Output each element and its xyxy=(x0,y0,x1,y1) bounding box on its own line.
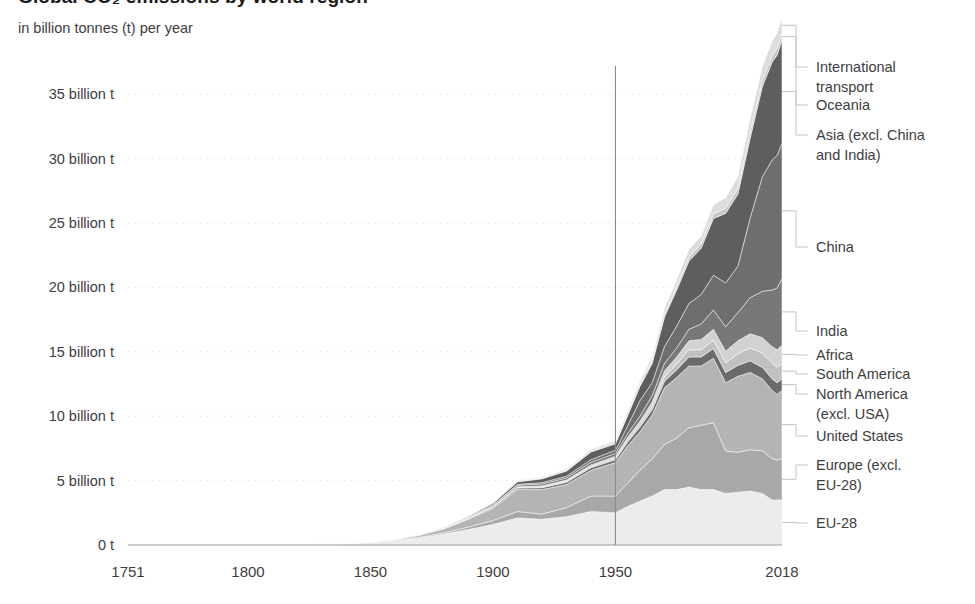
y-tick-label: 15 billion t xyxy=(49,344,114,360)
legend-label-europe_other: Europe (excl. xyxy=(816,457,901,473)
x-tick-label: 1800 xyxy=(231,563,264,580)
leader-line-africa xyxy=(782,354,808,355)
y-tick-label: 5 billion t xyxy=(57,473,114,489)
legend-label-asia_other: and India) xyxy=(816,147,881,163)
legend-label-international_transport: transport xyxy=(816,79,873,95)
area-band xyxy=(128,487,782,545)
y-axis-ticks: 0 t5 billion t10 billion t15 billion t20… xyxy=(49,86,114,553)
leader-line-international_transport xyxy=(782,25,808,67)
leader-line-south_america xyxy=(782,371,808,374)
legend-label-south_america: South America xyxy=(816,366,911,382)
co2-emissions-chart: Global CO₂ emissions by world region in … xyxy=(0,0,975,604)
y-tick-label: 25 billion t xyxy=(49,215,114,231)
leader-line-north_america xyxy=(782,385,808,394)
x-tick-label: 1950 xyxy=(599,563,632,580)
y-tick-label: 0 t xyxy=(98,537,114,553)
x-tick-label: 1850 xyxy=(354,563,387,580)
chart-svg: 0 t5 billion t10 billion t15 billion t20… xyxy=(0,0,975,604)
x-axis-ticks: 175118001850190019502018 xyxy=(111,563,798,580)
legend-label-united_states: United States xyxy=(816,428,903,444)
x-tick-label: 1751 xyxy=(111,563,144,580)
leader-line-eu28 xyxy=(782,523,808,524)
y-tick-label: 10 billion t xyxy=(49,408,114,424)
y-tick-label: 30 billion t xyxy=(49,151,114,167)
y-tick-label: 35 billion t xyxy=(49,86,114,102)
legend-leader-lines xyxy=(782,25,808,523)
leader-line-asia_other xyxy=(782,92,808,135)
legend-label-international_transport: International xyxy=(816,59,896,75)
leader-line-united_states xyxy=(782,425,808,436)
leader-line-europe_other xyxy=(782,465,808,479)
legend-label-china: China xyxy=(816,239,855,255)
x-tick-label: 1900 xyxy=(476,563,509,580)
leader-line-oceania xyxy=(782,37,808,105)
legend-label-india: India xyxy=(816,323,848,339)
stacked-areas xyxy=(128,18,782,545)
legend-label-north_america: North America xyxy=(816,386,909,402)
leader-line-china xyxy=(782,211,808,247)
legend-label-north_america: (excl. USA) xyxy=(816,406,889,422)
legend-label-asia_other: Asia (excl. China xyxy=(816,127,926,143)
legend-label-europe_other: EU-28) xyxy=(816,477,862,493)
legend-label-eu28: EU-28 xyxy=(816,515,857,531)
y-tick-label: 20 billion t xyxy=(49,279,114,295)
legend-label-africa: Africa xyxy=(816,347,854,363)
leader-line-india xyxy=(782,312,808,331)
legend: InternationaltransportOceaniaAsia (excl.… xyxy=(816,59,926,531)
x-tick-label: 2018 xyxy=(765,563,798,580)
legend-label-oceania: Oceania xyxy=(816,97,871,113)
